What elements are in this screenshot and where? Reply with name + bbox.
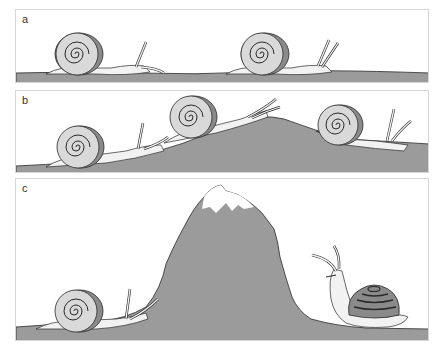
- panel-b-illustration: [16, 91, 429, 173]
- panel-a: a: [15, 9, 429, 83]
- snail-2-icon: [312, 246, 408, 328]
- snail-1-icon: [46, 33, 164, 75]
- panel-c-illustration: [16, 179, 429, 341]
- panel-a-illustration: [16, 10, 429, 83]
- panel-b: b: [15, 90, 429, 173]
- panel-c: c: [15, 178, 429, 341]
- snail-2-icon: [226, 33, 338, 75]
